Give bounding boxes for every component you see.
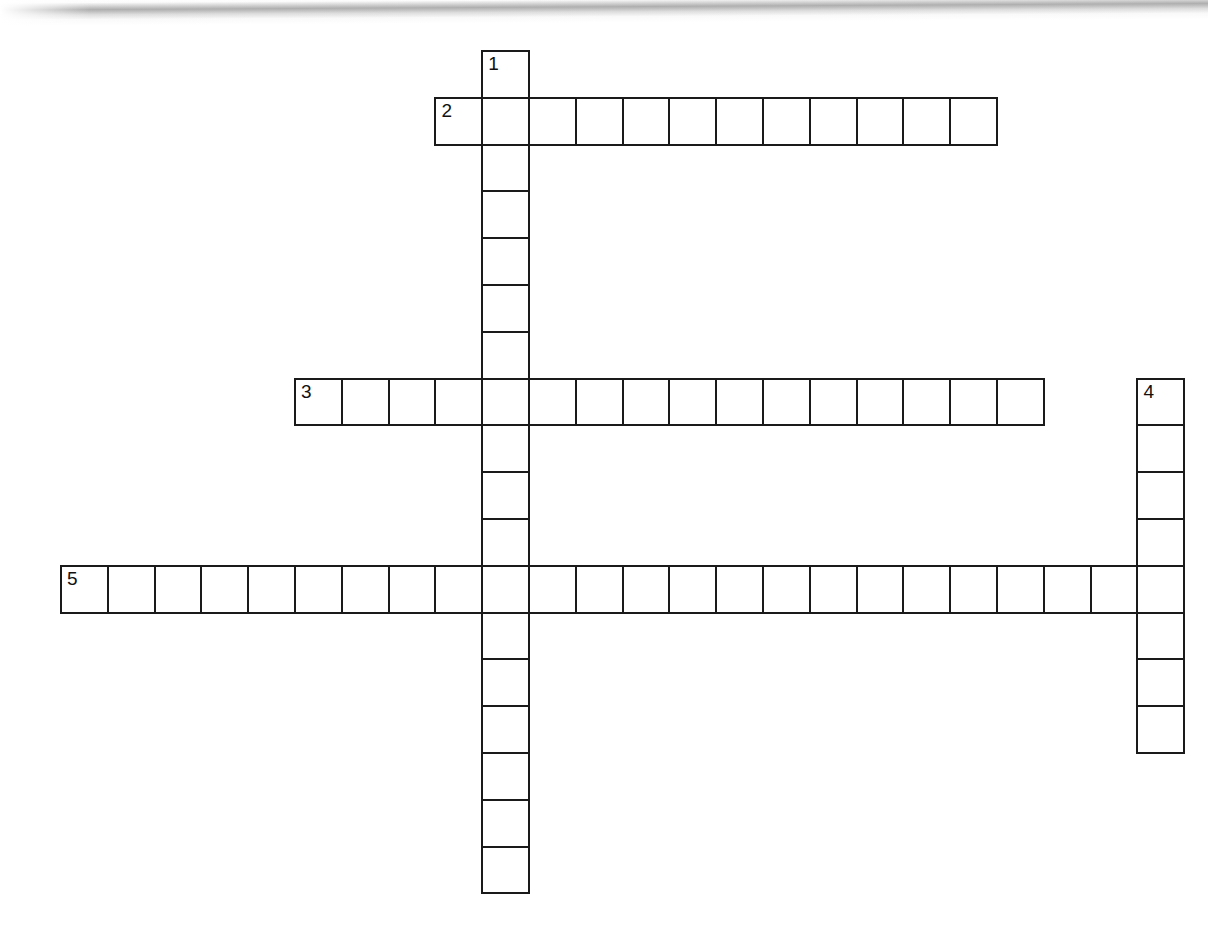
crossword-cell[interactable] — [481, 846, 530, 895]
clue-number-5: 5 — [67, 568, 78, 590]
crossword-cell[interactable] — [622, 378, 671, 427]
crossword-cell[interactable] — [902, 378, 951, 427]
crossword-cell[interactable] — [1136, 565, 1185, 614]
crossword-cell[interactable] — [996, 378, 1045, 427]
crossword-cell[interactable] — [809, 378, 858, 427]
crossword-cell[interactable] — [1136, 424, 1185, 473]
crossword-cell[interactable] — [341, 565, 390, 614]
crossword-cell[interactable] — [762, 378, 811, 427]
crossword-cell[interactable] — [481, 190, 530, 239]
crossword-cell[interactable] — [809, 97, 858, 146]
crossword-cell[interactable] — [996, 565, 1045, 614]
clue-number-3: 3 — [301, 381, 312, 403]
crossword-cell[interactable] — [528, 97, 577, 146]
crossword-cell[interactable] — [902, 565, 951, 614]
crossword-cell[interactable] — [715, 97, 764, 146]
crossword-cell[interactable] — [481, 612, 530, 661]
crossword-cell[interactable] — [668, 378, 717, 427]
crossword-cell[interactable] — [856, 97, 905, 146]
crossword-cell[interactable] — [902, 97, 951, 146]
crossword-cell[interactable] — [949, 565, 998, 614]
crossword-cell[interactable] — [668, 565, 717, 614]
crossword-cell[interactable] — [434, 565, 483, 614]
crossword-cell[interactable] — [1136, 471, 1185, 520]
crossword-cell[interactable] — [481, 518, 530, 567]
crossword-cell[interactable] — [528, 378, 577, 427]
crossword-cell[interactable] — [481, 658, 530, 707]
crossword-cell[interactable] — [622, 97, 671, 146]
crossword-cell[interactable]: 5 — [60, 565, 109, 614]
crossword-cell[interactable] — [154, 565, 203, 614]
crossword-grid: 12345 — [0, 0, 1208, 939]
crossword-cell[interactable]: 1 — [481, 50, 530, 99]
clue-number-2: 2 — [441, 100, 452, 122]
crossword-cell[interactable] — [949, 97, 998, 146]
crossword-cell[interactable] — [481, 97, 530, 146]
crossword-cell[interactable] — [762, 97, 811, 146]
crossword-cell[interactable] — [949, 378, 998, 427]
crossword-cell[interactable] — [575, 565, 624, 614]
crossword-cell[interactable] — [481, 752, 530, 801]
crossword-cell[interactable]: 4 — [1136, 378, 1185, 427]
crossword-cell[interactable] — [668, 97, 717, 146]
crossword-cell[interactable] — [294, 565, 343, 614]
clue-number-4: 4 — [1143, 381, 1154, 403]
crossword-cell[interactable] — [1136, 518, 1185, 567]
crossword-cell[interactable] — [856, 378, 905, 427]
crossword-cell[interactable]: 3 — [294, 378, 343, 427]
crossword-cell[interactable] — [715, 565, 764, 614]
crossword-cell[interactable] — [481, 424, 530, 473]
crossword-cell[interactable] — [762, 565, 811, 614]
crossword-cell[interactable] — [481, 378, 530, 427]
crossword-cell[interactable] — [107, 565, 156, 614]
crossword-cell[interactable] — [481, 705, 530, 754]
crossword-cell[interactable] — [481, 565, 530, 614]
crossword-cell[interactable] — [388, 378, 437, 427]
crossword-cell[interactable] — [481, 144, 530, 193]
crossword-cell[interactable] — [575, 97, 624, 146]
crossword-cell[interactable] — [200, 565, 249, 614]
crossword-cell[interactable] — [1136, 612, 1185, 661]
crossword-cell[interactable] — [481, 284, 530, 333]
crossword-cell[interactable] — [528, 565, 577, 614]
crossword-cell[interactable] — [715, 378, 764, 427]
crossword-cell[interactable] — [481, 237, 530, 286]
crossword-cell[interactable] — [388, 565, 437, 614]
crossword-cell[interactable] — [1090, 565, 1139, 614]
clue-number-1: 1 — [488, 53, 499, 75]
crossword-cell[interactable] — [247, 565, 296, 614]
crossword-cell[interactable] — [481, 331, 530, 380]
crossword-cell[interactable] — [1136, 705, 1185, 754]
crossword-cell[interactable] — [856, 565, 905, 614]
crossword-cell[interactable] — [622, 565, 671, 614]
crossword-cell[interactable] — [434, 378, 483, 427]
crossword-cell[interactable] — [481, 471, 530, 520]
crossword-cell[interactable] — [341, 378, 390, 427]
crossword-cell[interactable] — [1043, 565, 1092, 614]
crossword-cell[interactable] — [575, 378, 624, 427]
crossword-cell[interactable] — [481, 799, 530, 848]
crossword-cell[interactable]: 2 — [434, 97, 483, 146]
crossword-cell[interactable] — [809, 565, 858, 614]
crossword-cell[interactable] — [1136, 658, 1185, 707]
